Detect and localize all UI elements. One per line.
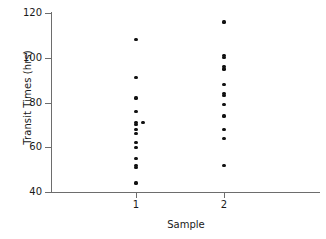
dot-plot-chart: Transit Times (hrs) 406080100120 12 Samp… [0, 0, 326, 239]
data-point [134, 181, 137, 184]
data-point [134, 110, 137, 113]
data-point [222, 114, 225, 117]
data-point [222, 128, 225, 131]
data-point [134, 132, 137, 135]
plot-area [0, 0, 326, 239]
data-point [134, 128, 137, 131]
data-point [222, 164, 225, 167]
data-point [222, 67, 225, 70]
data-point [222, 137, 225, 140]
data-point [134, 76, 137, 79]
x-axis-title: Sample [52, 219, 320, 230]
data-point [134, 123, 137, 126]
data-point [134, 166, 137, 169]
data-point [222, 83, 225, 86]
data-point [141, 121, 144, 124]
data-point [134, 141, 137, 144]
data-point [222, 56, 225, 59]
data-point [222, 103, 225, 106]
data-point [222, 94, 225, 97]
data-point [134, 157, 137, 160]
data-point [134, 146, 137, 149]
data-point [222, 20, 225, 23]
data-point [134, 38, 137, 41]
data-point [134, 96, 137, 99]
